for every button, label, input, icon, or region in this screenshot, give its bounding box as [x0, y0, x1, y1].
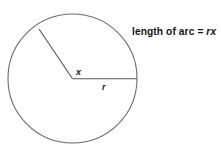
caption-equals: =	[197, 26, 206, 37]
radius-label: r	[102, 82, 106, 92]
diagram-canvas: x r	[0, 0, 221, 148]
radius-angled-line	[39, 29, 73, 79]
arc-length-caption: length of arc = rx	[132, 26, 216, 37]
circle-arc-diagram: x r length of arc = rx	[0, 0, 221, 148]
caption-expression: rx	[206, 26, 216, 37]
angle-label: x	[75, 67, 82, 77]
caption-prefix: length of arc	[132, 26, 197, 37]
